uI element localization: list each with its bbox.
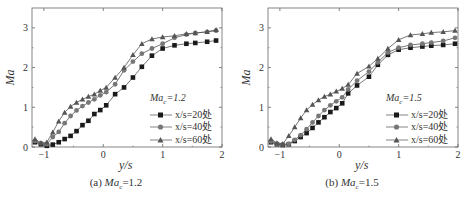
x-tick-label: 0	[101, 149, 106, 160]
y-tick-label: 1	[23, 102, 28, 113]
x-tick-label: 1	[160, 149, 165, 160]
y-tick-label: 2	[259, 62, 264, 73]
chart-panel-b: −10120123 Ma y/s Mac=1.5 x/s=20处 x/s=40处…	[236, 0, 465, 200]
legend-item-40: x/s=40处	[150, 121, 212, 134]
legend-item-60: x/s=60处	[386, 134, 448, 147]
triangle-marker-icon	[386, 136, 408, 144]
y-axis-label-a: Ma	[3, 70, 18, 86]
legend-item-60: x/s=60处	[150, 134, 212, 147]
x-axis-label-a: y/s	[119, 158, 132, 173]
y-tick-label: 0	[23, 142, 28, 153]
chart-panel-a: −10120123 Ma y/s Mac=1.2 x/s=20处 x/s=40处…	[0, 0, 232, 200]
legend-item-20: x/s=20处	[150, 109, 212, 122]
legend-item-20: x/s=20处	[386, 109, 448, 122]
square-marker-icon	[386, 111, 408, 119]
legend-b: Mac=1.5 x/s=20处 x/s=40处 x/s=60处	[386, 92, 448, 146]
legend-item-40: x/s=40处	[386, 121, 448, 134]
x-tick-label: 2	[456, 149, 461, 160]
x-tick-label: 2	[220, 149, 225, 160]
square-marker-icon	[150, 111, 172, 119]
y-tick-label: 2	[23, 62, 28, 73]
x-tick-label: 0	[337, 149, 342, 160]
x-tick-label: −1	[275, 149, 286, 160]
x-axis-label-b: y/s	[355, 158, 368, 173]
y-tick-label: 0	[259, 142, 264, 153]
y-axis-label-b: Ma	[239, 70, 254, 86]
circle-marker-icon	[386, 123, 408, 131]
y-tick-label: 1	[259, 102, 264, 113]
caption-a: (a) Mac=1.2	[0, 176, 232, 191]
circle-marker-icon	[150, 123, 172, 131]
legend-title-a: Mac=1.2	[150, 92, 212, 109]
x-tick-label: −1	[39, 149, 50, 160]
y-tick-label: 3	[23, 22, 28, 33]
caption-b: (b) Mac=1.5	[236, 176, 465, 191]
y-tick-label: 3	[259, 22, 264, 33]
x-tick-label: 1	[396, 149, 401, 160]
triangle-marker-icon	[150, 136, 172, 144]
legend-title-b: Mac=1.5	[386, 92, 448, 109]
legend-a: Mac=1.2 x/s=20处 x/s=40处 x/s=60处	[150, 92, 212, 146]
